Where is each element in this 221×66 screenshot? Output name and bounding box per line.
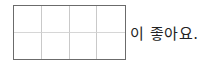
answer-writing-grid[interactable]	[13, 5, 126, 60]
grid-cell[interactable]	[42, 33, 70, 60]
grid-cell[interactable]	[14, 33, 42, 60]
sentence-suffix: 이 좋아요.	[130, 22, 199, 43]
grid-cell[interactable]	[42, 6, 70, 33]
grid-cell[interactable]	[14, 6, 42, 33]
grid-cell[interactable]	[70, 6, 98, 33]
grid-cell[interactable]	[97, 6, 125, 33]
grid-cell[interactable]	[70, 33, 98, 60]
grid-cell[interactable]	[97, 33, 125, 60]
